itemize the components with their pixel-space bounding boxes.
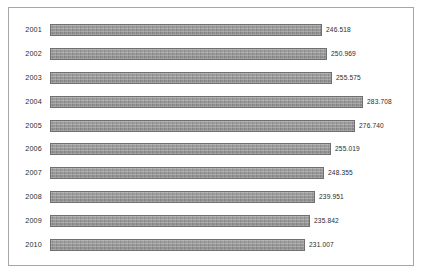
bar-value-label: 246.518 bbox=[326, 19, 351, 41]
bar-value-label: 255.575 bbox=[336, 67, 361, 89]
bar-row: 2009235.842 bbox=[9, 210, 413, 232]
bar-track: 246.518 bbox=[50, 19, 413, 41]
bar-row: 2008239.951 bbox=[9, 186, 413, 208]
bar-track: 283.708 bbox=[50, 91, 413, 113]
bar-row: 2001246.518 bbox=[9, 19, 413, 41]
bar-value-label: 250.969 bbox=[331, 43, 356, 65]
bar[interactable] bbox=[50, 167, 324, 179]
bar[interactable] bbox=[50, 239, 305, 251]
bar-track: 235.842 bbox=[50, 210, 413, 232]
category-label: 2006 bbox=[9, 138, 42, 160]
category-label: 2003 bbox=[9, 67, 42, 89]
bar[interactable] bbox=[50, 215, 310, 227]
bar-value-label: 235.842 bbox=[314, 210, 339, 232]
category-label: 2008 bbox=[9, 186, 42, 208]
bar-value-label: 283.708 bbox=[367, 91, 392, 113]
bar[interactable] bbox=[50, 72, 332, 84]
bar-chart: 2001246.5182002250.9692003255.5752004283… bbox=[0, 0, 424, 276]
bar-track: 239.951 bbox=[50, 186, 413, 208]
bar[interactable] bbox=[50, 143, 331, 155]
bar[interactable] bbox=[50, 96, 363, 108]
bar-track: 255.019 bbox=[50, 138, 413, 160]
bar[interactable] bbox=[50, 120, 355, 132]
plot-area: 2001246.5182002250.9692003255.5752004283… bbox=[9, 8, 413, 265]
bar-row: 2002250.969 bbox=[9, 43, 413, 65]
bar-value-label: 239.951 bbox=[319, 186, 344, 208]
bar-track: 276.740 bbox=[50, 115, 413, 137]
category-label: 2009 bbox=[9, 210, 42, 232]
bar-row: 2007248.355 bbox=[9, 162, 413, 184]
bar-track: 250.969 bbox=[50, 43, 413, 65]
bar-row: 2004283.708 bbox=[9, 91, 413, 113]
bar[interactable] bbox=[50, 191, 315, 203]
bar-track: 231.007 bbox=[50, 234, 413, 256]
bar-row: 2005276.740 bbox=[9, 115, 413, 137]
category-label: 2001 bbox=[9, 19, 42, 41]
category-label: 2002 bbox=[9, 43, 42, 65]
bar[interactable] bbox=[50, 24, 322, 36]
category-label: 2005 bbox=[9, 115, 42, 137]
bar-value-label: 248.355 bbox=[328, 162, 353, 184]
bar-value-label: 255.019 bbox=[335, 138, 360, 160]
chart-frame: 2001246.5182002250.9692003255.5752004283… bbox=[8, 7, 414, 266]
bar[interactable] bbox=[50, 48, 327, 60]
bar-value-label: 231.007 bbox=[309, 234, 334, 256]
bar-track: 255.575 bbox=[50, 67, 413, 89]
bar-track: 248.355 bbox=[50, 162, 413, 184]
bar-row: 2003255.575 bbox=[9, 67, 413, 89]
bar-row: 2010231.007 bbox=[9, 234, 413, 256]
bar-row: 2006255.019 bbox=[9, 138, 413, 160]
category-label: 2007 bbox=[9, 162, 42, 184]
category-label: 2010 bbox=[9, 234, 42, 256]
bar-value-label: 276.740 bbox=[359, 115, 384, 137]
category-label: 2004 bbox=[9, 91, 42, 113]
